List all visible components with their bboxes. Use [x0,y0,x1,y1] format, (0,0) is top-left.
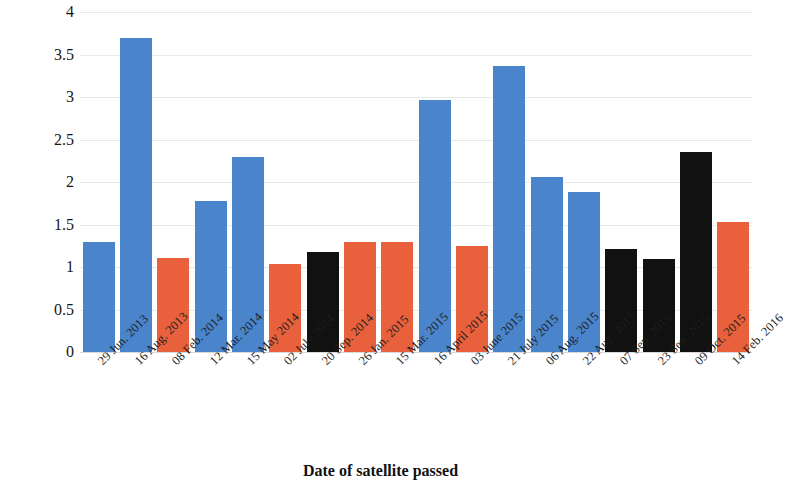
plot-area [80,12,752,352]
x-axis-tick-labels: 29 Jun. 201316 Aug. 201308 Feb. 201412 M… [80,352,752,462]
y-tick-label: 2.5 [26,132,74,148]
y-tick-label: 1 [26,259,74,275]
y-axis-tick-labels: 43.532.521.510.50 [26,0,74,365]
x-axis-title: Date of satellite passed [0,462,761,480]
y-tick-label: 0 [26,344,74,360]
bar [83,242,115,353]
bar [493,66,525,352]
y-tick-label: 4 [26,4,74,20]
y-tick-label: 3 [26,89,74,105]
y-tick-label: 3.5 [26,47,74,63]
y-tick-label: 0.5 [26,302,74,318]
y-tick-label: 1.5 [26,217,74,233]
y-tick-label: 2 [26,174,74,190]
bar [120,38,152,353]
bar-series [80,12,752,352]
